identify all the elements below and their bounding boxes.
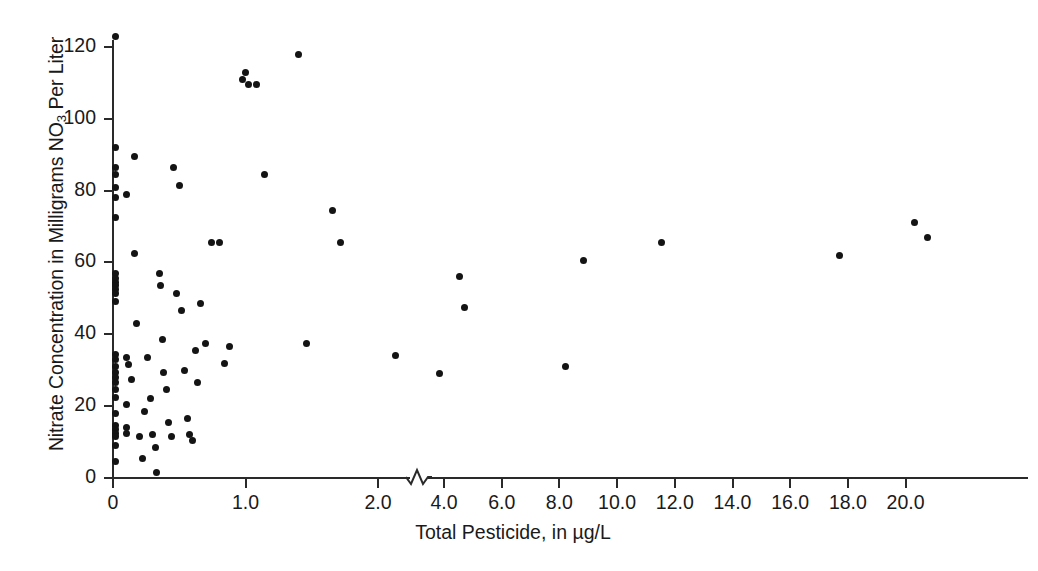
x-axis-tick-label: 8.0 — [529, 491, 589, 514]
data-point — [112, 298, 119, 305]
data-point — [261, 171, 268, 178]
data-point — [159, 336, 166, 343]
data-point — [245, 81, 252, 88]
data-point — [836, 252, 843, 259]
data-point — [112, 33, 119, 40]
y-axis-tick-label: 60 — [36, 249, 96, 272]
data-point — [125, 361, 132, 368]
data-point — [139, 455, 146, 462]
data-point — [562, 363, 569, 370]
data-point — [208, 239, 215, 246]
y-axis-tick-label: 120 — [36, 34, 96, 57]
data-point — [131, 153, 138, 160]
data-point — [112, 442, 119, 449]
x-axis-tick — [732, 479, 734, 488]
data-point — [337, 239, 344, 246]
data-point — [173, 290, 180, 297]
x-axis-break-icon — [406, 466, 432, 488]
x-axis-tick — [558, 479, 560, 488]
data-point — [192, 347, 199, 354]
x-axis-tick — [847, 479, 849, 488]
data-point — [136, 433, 143, 440]
data-point — [123, 354, 130, 361]
data-point — [242, 69, 249, 76]
data-point — [184, 415, 191, 422]
data-point — [112, 394, 119, 401]
x-axis-tick-label: 0 — [83, 491, 143, 514]
data-point — [178, 307, 185, 314]
x-axis-tick — [377, 479, 379, 488]
data-point — [112, 379, 119, 386]
x-axis-tick-label: 10.0 — [587, 491, 647, 514]
data-point — [112, 458, 119, 465]
data-point — [112, 214, 119, 221]
x-axis-tick-label: 2.0 — [348, 491, 408, 514]
x-axis-tick-label: 4.0 — [414, 491, 474, 514]
data-point — [123, 191, 130, 198]
data-point — [461, 304, 468, 311]
y-axis-tick — [104, 261, 113, 263]
data-point — [131, 250, 138, 257]
data-point — [253, 81, 260, 88]
data-point — [112, 171, 119, 178]
y-axis-tick-label: 40 — [36, 321, 96, 344]
data-point — [112, 144, 119, 151]
data-point — [295, 51, 302, 58]
data-point — [197, 300, 204, 307]
data-point — [156, 270, 163, 277]
data-point — [112, 194, 119, 201]
y-axis-tick — [104, 405, 113, 407]
data-point — [112, 184, 119, 191]
x-axis-tick-label: 18.0 — [818, 491, 878, 514]
data-point — [392, 352, 399, 359]
x-axis-line-right-segment — [428, 477, 1028, 479]
x-axis-tick — [789, 479, 791, 488]
data-point — [123, 430, 130, 437]
x-axis-tick — [674, 479, 676, 488]
scatter-plot-figure: Nitrate Concentration in Milligrams NO3 … — [0, 0, 1038, 571]
data-point — [133, 320, 140, 327]
x-axis-tick — [443, 479, 445, 488]
data-point — [160, 369, 167, 376]
data-point — [112, 386, 119, 393]
x-axis-tick-label: 6.0 — [472, 491, 532, 514]
x-axis-tick — [245, 479, 247, 488]
x-axis-tick-label: 12.0 — [645, 491, 705, 514]
data-point — [181, 367, 188, 374]
data-point — [149, 431, 156, 438]
data-point — [123, 401, 130, 408]
data-point — [128, 376, 135, 383]
data-point — [147, 395, 154, 402]
y-axis-tick-label: 100 — [36, 106, 96, 129]
data-point — [112, 356, 119, 363]
data-point — [112, 164, 119, 171]
x-axis-tick — [616, 479, 618, 488]
data-point — [456, 273, 463, 280]
x-axis-tick-label: 14.0 — [703, 491, 763, 514]
x-axis-title: Total Pesticide, in µg/L — [113, 521, 913, 544]
data-point — [580, 257, 587, 264]
y-axis-tick-label: 0 — [36, 465, 96, 488]
data-point — [152, 444, 159, 451]
data-point — [226, 343, 233, 350]
x-axis-tick-label: 16.0 — [760, 491, 820, 514]
x-axis-tick — [112, 479, 114, 488]
data-point — [170, 164, 177, 171]
data-point — [436, 370, 443, 377]
data-point — [176, 182, 183, 189]
data-point — [911, 219, 918, 226]
data-point — [157, 282, 164, 289]
y-axis-tick — [104, 190, 113, 192]
data-point — [189, 437, 196, 444]
data-point — [165, 419, 172, 426]
data-point — [658, 239, 665, 246]
x-axis-tick-label: 1.0 — [216, 491, 276, 514]
data-point — [924, 234, 931, 241]
y-axis-tick-label: 20 — [36, 393, 96, 416]
data-point — [153, 469, 160, 476]
x-axis-line-left-segment — [113, 477, 410, 479]
y-axis-tick — [104, 46, 113, 48]
y-axis-tick — [104, 333, 113, 335]
data-point — [144, 354, 151, 361]
data-point — [303, 340, 310, 347]
